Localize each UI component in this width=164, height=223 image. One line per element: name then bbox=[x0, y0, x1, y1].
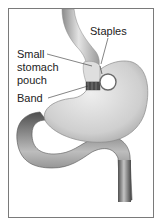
staples-leader bbox=[101, 38, 108, 64]
label-pouch-line2: stomach bbox=[17, 61, 59, 73]
stomach-illustration bbox=[0, 0, 164, 223]
label-pouch-line3: pouch bbox=[17, 74, 47, 86]
label-band: Band bbox=[17, 92, 43, 104]
label-staples: Staples bbox=[90, 25, 127, 37]
label-pouch-line1: Small bbox=[17, 48, 45, 60]
staple-window bbox=[100, 74, 116, 90]
